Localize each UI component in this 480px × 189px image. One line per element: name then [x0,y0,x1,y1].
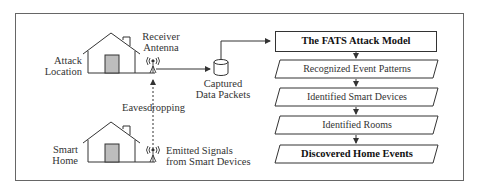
attack-location-line2: Location [40,66,82,77]
attack-location-label: Attack Location [40,55,82,77]
home-events-label: Discovered Home Events [276,148,438,159]
smart-home-house-icon [83,122,155,162]
fats-model-label: The FATS Attack Model [275,35,437,46]
smart-home-line2: Home [40,155,78,166]
emitted-line2: from Smart Devices [166,156,251,167]
smart-devices-label: Identified Smart Devices [276,91,438,102]
receiver-antenna-icon [147,57,160,73]
captured-line1: Captured [190,78,256,89]
database-cylinder-icon [214,60,228,76]
emitted-line1: Emitted Signals [166,145,251,156]
emitted-signals-label: Emitted Signals from Smart Devices [166,145,251,167]
captured-line2: Data Packets [190,89,256,100]
smart-home-label: Smart Home [40,144,78,166]
arrow-packets-to-model [221,41,270,60]
receiver-antenna-line2: Antenna [136,42,186,53]
captured-data-packets-label: Captured Data Packets [190,78,256,100]
attack-location-line1: Attack [40,55,82,66]
receiver-antenna-label: Receiver Antenna [136,31,186,53]
receiver-antenna-line1: Receiver [136,31,186,42]
event-patterns-label: Recognized Event Patterns [276,63,438,74]
emitter-antenna-icon [147,146,160,162]
smart-home-line1: Smart [40,144,78,155]
eavesdropping-label: Eavesdropping [122,102,185,113]
rooms-label: Identified Rooms [276,119,438,130]
